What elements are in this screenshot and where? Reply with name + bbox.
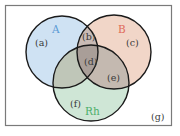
region-g-label: (g): [151, 111, 165, 122]
set-b-label: B: [118, 23, 126, 35]
set-rh-label: Rh: [85, 105, 100, 117]
region-f-label: (f): [70, 98, 81, 109]
venn-diagram: A B Rh (a) (b) (c) (d) (e) (f) (g): [0, 0, 180, 136]
set-a-label: A: [51, 23, 60, 35]
region-e-label: (e): [107, 72, 120, 83]
region-c-label: (c): [126, 37, 139, 48]
region-a-label: (a): [35, 37, 48, 48]
region-b-label: (b): [82, 31, 96, 42]
region-d-label: (d): [84, 56, 98, 67]
